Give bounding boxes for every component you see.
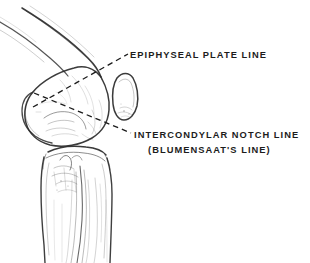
intercondylar-notch-line: [34, 93, 131, 133]
tibia-bone: [41, 146, 112, 263]
label-intercondylar-notch-line: INTERCONDYLAR NOTCH LINE: [134, 129, 299, 141]
reference-lines-group: [33, 54, 131, 133]
femur-bone: [0, 6, 109, 146]
label-blumensaat-line: (BLUMENSAAT'S LINE): [148, 144, 271, 156]
knee-anatomy-figure: EPIPHYSEAL PLATE LINE INTERCONDYLAR NOTC…: [0, 0, 310, 263]
patella-bone: [113, 74, 138, 121]
label-epiphyseal-plate-line: EPIPHYSEAL PLATE LINE: [130, 49, 267, 61]
